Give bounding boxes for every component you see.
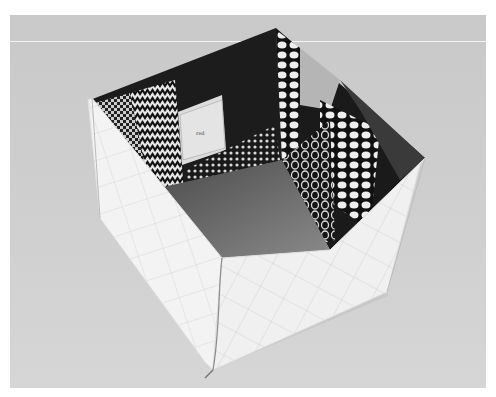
fabric-box-illustration: red xyxy=(10,15,486,388)
photo: red xyxy=(10,15,486,388)
svg-text:red: red xyxy=(196,130,205,136)
